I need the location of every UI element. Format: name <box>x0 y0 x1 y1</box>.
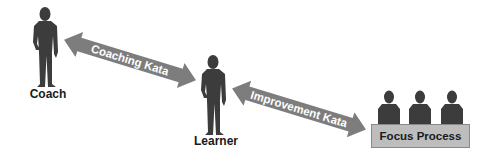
worker-figure-icon <box>440 90 464 126</box>
improvement-kata-label: Improvement Kata <box>228 76 369 142</box>
focus-process-box: Focus Process <box>371 124 470 148</box>
coaching-kata-arrow: Coaching Kata <box>60 27 200 92</box>
coach-label: Coach <box>22 87 74 101</box>
learner-label: Learner <box>188 134 244 148</box>
worker-figure-icon <box>377 90 401 126</box>
focus-process-label: Focus Process <box>380 130 462 142</box>
coach-figure-icon <box>30 6 62 88</box>
coaching-kata-label: Coaching Kata <box>60 27 200 92</box>
worker-figure-icon <box>408 90 432 126</box>
improvement-kata-arrow: Improvement Kata <box>228 76 369 142</box>
learner-figure-icon <box>198 54 230 136</box>
